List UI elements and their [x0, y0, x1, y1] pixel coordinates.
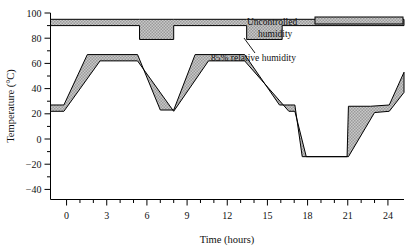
y-tick-label-20: 20 — [32, 108, 42, 119]
y-tick-label-60: 60 — [32, 58, 42, 69]
annotation-uncontrolled-line1: Uncontrolled — [247, 17, 297, 27]
x-tick-label-12: 12 — [222, 210, 232, 221]
y-tick-label--40: −40 — [26, 184, 42, 195]
x-tick-label-21: 21 — [343, 210, 353, 221]
y-tick-label-80: 80 — [32, 33, 42, 44]
y-axis-title: Temperature (°C) — [5, 69, 17, 143]
legend-swatch-uncontrolled — [315, 17, 403, 24]
y-tick-label--20: −20 — [26, 159, 42, 170]
x-tick-label-3: 3 — [104, 210, 109, 221]
annotation-85-relative-humidity: 85% relative humidity — [211, 53, 296, 63]
chart-figure: −40−20020406080100 03691215182124 Uncont… — [0, 0, 409, 250]
y-tick-label-0: 0 — [37, 134, 42, 145]
y-tick-label-40: 40 — [32, 83, 42, 94]
x-tick-label-6: 6 — [144, 210, 149, 221]
x-axis-title: Time (hours) — [200, 234, 255, 246]
x-tick-label-0: 0 — [64, 210, 69, 221]
x-tick-label-24: 24 — [383, 210, 393, 221]
temperature-humidity-chart: −40−20020406080100 03691215182124 Uncont… — [0, 0, 409, 250]
y-tick-label-100: 100 — [27, 8, 42, 19]
annotation-uncontrolled-line2: humidity — [258, 29, 293, 39]
x-tick-label-9: 9 — [185, 210, 190, 221]
x-tick-label-18: 18 — [303, 210, 313, 221]
x-tick-label-15: 15 — [262, 210, 272, 221]
